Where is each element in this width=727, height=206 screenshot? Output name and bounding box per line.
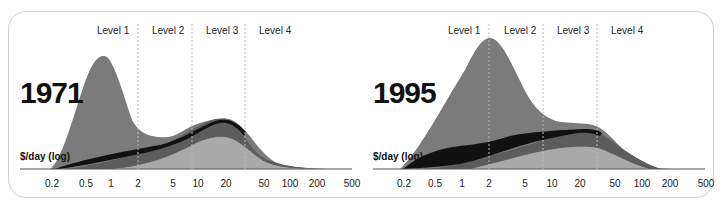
x-tick: 20 — [574, 178, 586, 189]
level-label: Level 3 — [557, 25, 590, 36]
x-tick: 200 — [662, 178, 679, 189]
x-tick: 2 — [486, 178, 492, 189]
x-tick: 50 — [609, 178, 621, 189]
x-tick: 1 — [108, 178, 114, 189]
x-tick: 100 — [634, 178, 651, 189]
x-tick: 200 — [309, 178, 326, 189]
year-label: 1995 — [373, 76, 436, 109]
x-tick: 5 — [522, 178, 528, 189]
year-label: 1971 — [20, 76, 83, 109]
x-tick: 0.5 — [428, 178, 442, 189]
x-tick: 10 — [546, 178, 558, 189]
x-tick: 2 — [135, 178, 141, 189]
x-tick: 500 — [344, 178, 361, 189]
income-distribution-charts: Level 1 Level 2 Level 3 Level 4 1971 $/d… — [0, 0, 727, 206]
level-label: Level 2 — [504, 25, 537, 36]
level-label: Level 3 — [206, 25, 239, 36]
x-tick: 10 — [192, 178, 204, 189]
x-tick: 100 — [282, 178, 299, 189]
level-label: Level 4 — [611, 25, 644, 36]
x-tick: 50 — [258, 178, 270, 189]
level-label: Level 2 — [152, 25, 185, 36]
x-tick: 0.5 — [79, 178, 93, 189]
x-tick: 0.2 — [45, 178, 59, 189]
x-tick: 500 — [698, 178, 715, 189]
level-label: Level 4 — [259, 25, 292, 36]
x-tick: 0.2 — [397, 178, 411, 189]
x-tick: 5 — [170, 178, 176, 189]
chart-1971: Level 1 Level 2 Level 3 Level 4 1971 $/d… — [20, 24, 361, 189]
x-tick: 1 — [459, 178, 465, 189]
axis-label: $/day (log) — [20, 151, 70, 162]
level-label: Level 1 — [448, 25, 481, 36]
level-label: Level 1 — [97, 25, 130, 36]
x-tick: 20 — [220, 178, 232, 189]
axis-label: $/day (log) — [373, 151, 423, 162]
chart-1995: Level 1 Level 2 Level 3 Level 4 1995 $/d… — [373, 24, 715, 189]
